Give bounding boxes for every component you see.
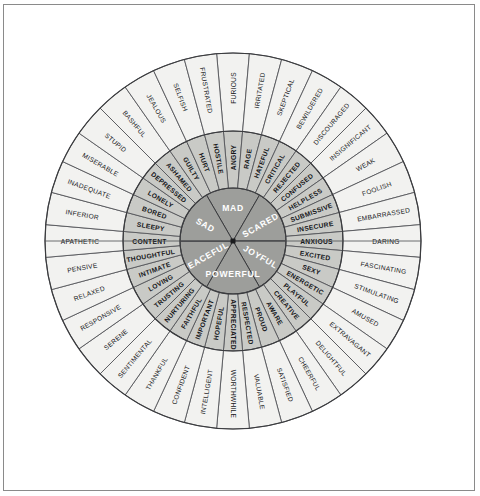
middle-label-appreciated: APPRECIATED — [230, 299, 237, 350]
feelings-wheel-diagram: MADSCAREDJOYFULPOWERFULPEACEFULSADANGRYR… — [0, 0, 480, 496]
outer-label-worthwhile: WORTHWHILE — [230, 370, 237, 419]
core-label-mad: MAD — [222, 203, 244, 213]
wheel-svg: MADSCAREDJOYFULPOWERFULPEACEFULSADANGRYR… — [0, 0, 480, 496]
outer-label-furious: FURIOUS — [230, 72, 237, 104]
center-dot — [231, 239, 236, 244]
core-label-powerful: POWERFUL — [206, 269, 261, 279]
middle-label-angry: ANGRY — [230, 145, 237, 171]
